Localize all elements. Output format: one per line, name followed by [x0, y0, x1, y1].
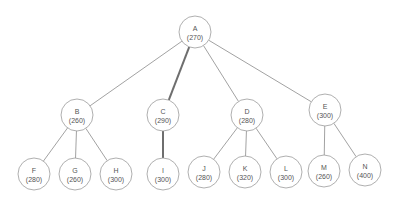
node-circle [18, 158, 50, 190]
node-label: L [284, 165, 288, 172]
node-b: B(260) [61, 99, 93, 131]
node-label: M [321, 164, 327, 171]
nodes-layer: A(270)B(260)C(290)D(280)E(300)F(280)G(26… [18, 16, 381, 190]
node-label: N [362, 163, 367, 170]
edge-b-f [43, 128, 67, 161]
edge-e-n [334, 123, 356, 156]
node-circle [59, 158, 91, 190]
edge-a-e [209, 40, 312, 102]
node-circle [179, 16, 211, 48]
node-circle [100, 158, 132, 190]
node-j: J(280) [188, 156, 220, 188]
edge-d-l [256, 128, 277, 159]
node-label: F [32, 167, 36, 174]
node-circle [147, 158, 179, 190]
node-e: E(300) [309, 94, 341, 126]
node-l: L(300) [270, 156, 302, 188]
node-c: C(290) [147, 99, 179, 131]
node-value: (260) [316, 173, 332, 181]
node-label: E [323, 103, 328, 110]
node-value: (290) [155, 117, 171, 125]
edge-b-g [76, 131, 77, 158]
node-value: (300) [108, 176, 124, 184]
node-value: (280) [196, 174, 212, 182]
node-d: D(280) [231, 99, 263, 131]
node-label: G [72, 167, 77, 174]
node-circle [309, 94, 341, 126]
node-h: H(300) [100, 158, 132, 190]
node-circle [349, 154, 381, 186]
node-value: (300) [278, 174, 294, 182]
node-circle [188, 156, 220, 188]
node-label: B [75, 108, 80, 115]
node-value: (320) [237, 174, 253, 182]
node-label: C [160, 108, 165, 115]
node-circle [231, 99, 263, 131]
node-label: K [243, 165, 248, 172]
node-label: I [162, 167, 164, 174]
node-value: (280) [239, 117, 255, 125]
edge-a-d [203, 46, 238, 102]
node-g: G(260) [59, 158, 91, 190]
node-m: M(260) [308, 155, 340, 187]
node-k: K(320) [229, 156, 261, 188]
edge-b-h [86, 128, 107, 160]
node-f: F(280) [18, 158, 50, 190]
node-circle [270, 156, 302, 188]
edge-d-j [214, 128, 238, 159]
node-value: (300) [155, 176, 171, 184]
node-value: (400) [357, 172, 373, 180]
node-label: D [244, 108, 249, 115]
node-value: (300) [317, 112, 333, 120]
node-circle [61, 99, 93, 131]
node-label: A [193, 25, 198, 32]
node-circle [147, 99, 179, 131]
edges-layer [43, 40, 356, 161]
tree-diagram: A(270)B(260)C(290)D(280)E(300)F(280)G(26… [0, 0, 402, 202]
node-a: A(270) [179, 16, 211, 48]
edge-a-c [169, 47, 189, 100]
node-circle [308, 155, 340, 187]
node-i: I(300) [147, 158, 179, 190]
node-label: J [202, 165, 206, 172]
edge-a-b [90, 41, 182, 106]
node-label: H [113, 167, 118, 174]
node-n: N(400) [349, 154, 381, 186]
edge-d-k [246, 131, 247, 156]
node-value: (270) [187, 34, 203, 42]
node-value: (260) [69, 117, 85, 125]
node-circle [229, 156, 261, 188]
node-value: (260) [67, 176, 83, 184]
node-value: (280) [26, 176, 42, 184]
